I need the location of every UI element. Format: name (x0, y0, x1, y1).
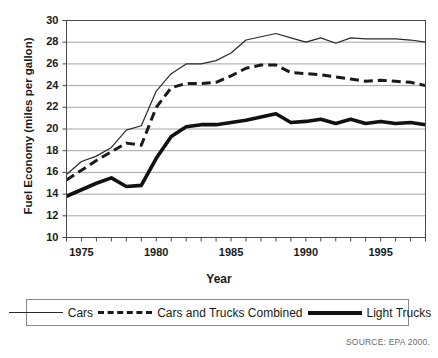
y-tick-label: 30 (33, 14, 59, 26)
fuel-economy-chart: Fuel Economy (miles per gallon) 10121416… (0, 0, 438, 358)
y-tick-label: 24 (33, 79, 59, 91)
series-lines (67, 34, 426, 197)
source-note: SOURCE: EPA 2000. (346, 337, 430, 347)
y-tick-label: 26 (33, 57, 59, 69)
x-tick-label: 1985 (206, 246, 256, 258)
series-line-cars (67, 34, 426, 175)
y-tick-label: 14 (33, 187, 59, 199)
y-tick-label: 18 (33, 144, 59, 156)
legend-swatch-combined-icon (98, 311, 152, 314)
legend-label-combined: Cars and Trucks Combined (157, 306, 302, 320)
x-axis-title: Year (0, 272, 438, 286)
series-line-light-trucks (67, 114, 426, 196)
x-tick-label: 1990 (281, 246, 331, 258)
y-tick-label: 10 (33, 231, 59, 243)
y-tick-label: 28 (33, 35, 59, 47)
legend-label-cars: Cars (68, 306, 93, 320)
x-tick-marks (67, 238, 426, 242)
legend-swatch-light-trucks-icon (308, 311, 362, 315)
legend-label-light-trucks: Light Trucks (367, 306, 432, 320)
y-tick-label: 22 (33, 100, 59, 112)
x-tick-label: 1980 (131, 246, 181, 258)
gridlines (63, 21, 426, 238)
y-tick-label: 16 (33, 165, 59, 177)
x-tick-label: 1975 (56, 246, 106, 258)
y-tick-label: 12 (33, 209, 59, 221)
x-tick-label: 1995 (356, 246, 406, 258)
legend-item-light-trucks: Light Trucks (303, 306, 432, 320)
legend-item-cars: Cars (4, 306, 93, 320)
legend-swatch-cars-icon (9, 312, 63, 313)
y-tick-label: 20 (33, 122, 59, 134)
legend-item-combined: Cars and Trucks Combined (93, 306, 302, 320)
chart-legend: Cars Cars and Trucks Combined Light Truc… (26, 299, 409, 326)
